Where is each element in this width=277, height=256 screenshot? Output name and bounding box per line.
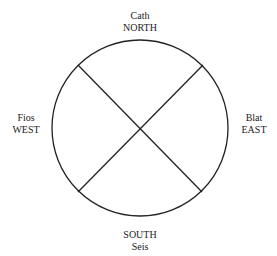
east-irish-label: Blat	[232, 112, 276, 124]
label-north: Cath NORTH	[110, 10, 170, 34]
label-west: Fios WEST	[4, 112, 48, 136]
south-irish-label: Seis	[110, 241, 170, 253]
label-east: Blat EAST	[232, 112, 276, 136]
east-english-label: EAST	[232, 124, 276, 136]
label-south: SOUTH Seis	[110, 229, 170, 253]
south-english-label: SOUTH	[110, 229, 170, 241]
north-irish-label: Cath	[110, 10, 170, 22]
west-irish-label: Fios	[4, 112, 48, 124]
north-english-label: NORTH	[110, 22, 170, 34]
west-english-label: WEST	[4, 124, 48, 136]
